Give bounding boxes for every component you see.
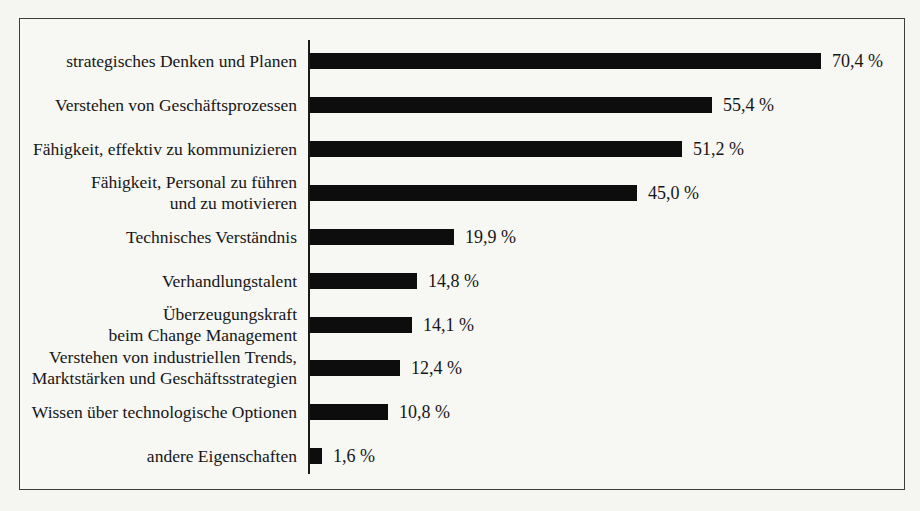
value-label: 70,4 % [832,51,883,72]
category-label: Verhandlungstalent [20,259,297,303]
bar [310,53,821,69]
value-label: 14,1 % [423,315,474,336]
bar [310,448,322,464]
bar-row: Verhandlungstalent14,8 % [20,259,904,303]
bar-chart-figure: strategisches Denken und Planen70,4 %Ver… [19,18,905,490]
category-label-line: Verstehen von Geschäftsprozessen [55,95,297,116]
bar [310,229,454,245]
category-label-line: Fähigkeit, effektiv zu kommunizieren [33,139,297,160]
scanned-figure-page: strategisches Denken und Planen70,4 %Ver… [0,0,920,511]
category-label: Verstehen von Geschäftsprozessen [20,83,297,127]
value-label: 55,4 % [723,95,774,116]
category-label-line: beim Change Management [108,325,297,346]
category-label: strategisches Denken und Planen [20,39,297,83]
category-label: Fähigkeit, effektiv zu kommunizieren [20,127,297,171]
bar-row: Technisches Verständnis19,9 % [20,215,904,259]
category-label-line: Verhandlungstalent [162,271,297,292]
category-label: Überzeugungskraftbeim Change Management [20,303,297,347]
bar [310,97,712,113]
bar-row: Verstehen von Geschäftsprozessen55,4 % [20,83,904,127]
bar [310,185,637,201]
category-label-line: Verstehen von industriellen Trends, [49,347,297,368]
category-label-line: und zu motivieren [170,193,297,214]
value-label: 1,6 % [333,446,375,467]
bar-row: Fähigkeit, Personal zu führenund zu moti… [20,171,904,215]
bar-row: andere Eigenschaften1,6 % [20,434,904,478]
category-label: Verstehen von industriellen Trends,Markt… [20,346,297,390]
value-label: 19,9 % [465,227,516,248]
bar [310,141,682,157]
category-label-line: Marktstärken und Geschäftsstrategien [32,368,297,389]
bar-row: Fähigkeit, effektiv zu kommunizieren51,2… [20,127,904,171]
value-label: 45,0 % [648,183,699,204]
category-label-line: andere Eigenschaften [147,446,297,467]
bar [310,317,412,333]
category-label-line: strategisches Denken und Planen [66,51,297,72]
value-label: 12,4 % [411,358,462,379]
bar-row: Wissen über technologische Optionen10,8 … [20,390,904,434]
category-label: Technisches Verständnis [20,215,297,259]
value-label: 10,8 % [399,402,450,423]
bar-row: Verstehen von industriellen Trends,Markt… [20,346,904,390]
bar-row: Überzeugungskraftbeim Change Management1… [20,303,904,347]
bar-chart-plot: strategisches Denken und Planen70,4 %Ver… [20,19,904,489]
category-label: Wissen über technologische Optionen [20,390,297,434]
category-label-line: Fähigkeit, Personal zu führen [91,172,297,193]
category-label-line: Überzeugungskraft [163,304,297,325]
category-label-line: Wissen über technologische Optionen [32,402,297,423]
category-label-line: Technisches Verständnis [126,227,297,248]
bar [310,360,400,376]
category-label: andere Eigenschaften [20,434,297,478]
value-label: 14,8 % [428,271,479,292]
bar [310,404,388,420]
bar-row: strategisches Denken und Planen70,4 % [20,39,904,83]
bar [310,273,417,289]
value-label: 51,2 % [693,139,744,160]
category-label: Fähigkeit, Personal zu führenund zu moti… [20,171,297,215]
